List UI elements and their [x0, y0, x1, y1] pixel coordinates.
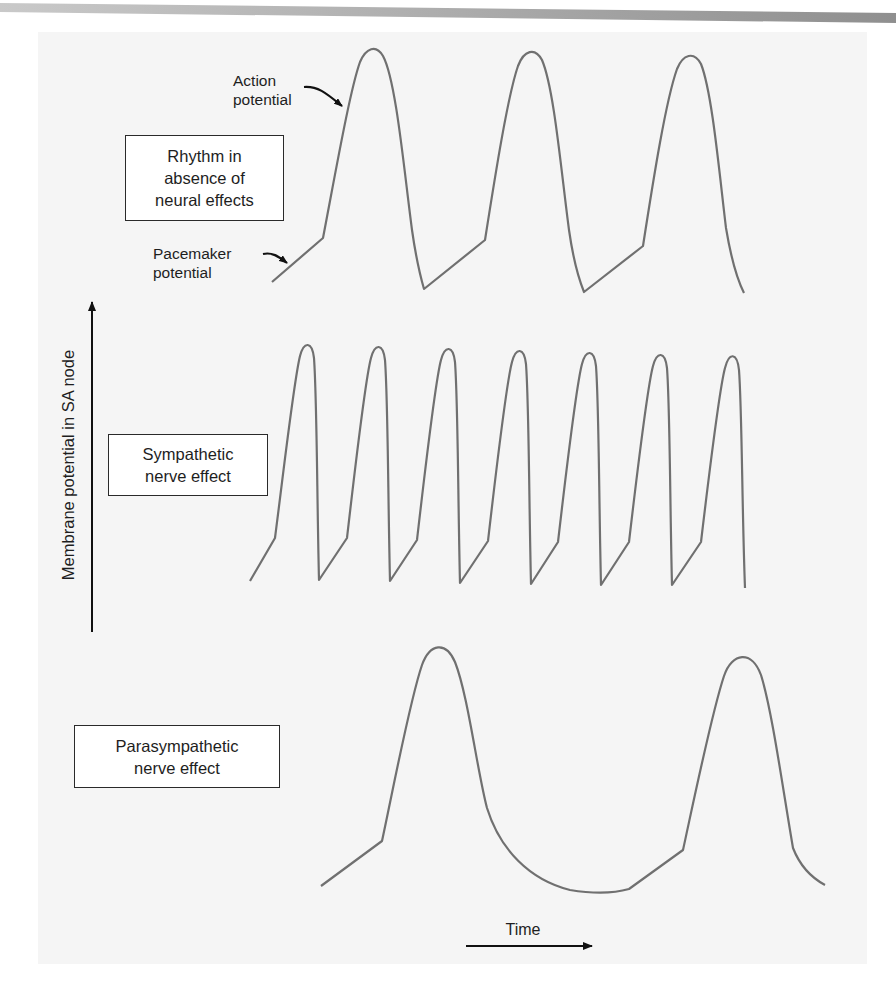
box-line: absence of: [164, 167, 245, 189]
y-axis-label: Membrane potential in SA node: [59, 350, 78, 580]
pacemaker-potential-pointer: [263, 253, 287, 263]
sympathetic-trace: [250, 345, 745, 588]
box-line: nerve effect: [145, 465, 231, 487]
action-potential-pointer: [304, 87, 342, 106]
annotation-line: potential: [153, 263, 231, 282]
pacemaker-potential-annotation: Pacemaker potential: [153, 244, 231, 282]
x-axis-label: Time: [506, 921, 541, 939]
action-potential-annotation: Action potential: [233, 71, 292, 109]
baseline-rhythm-label-box: Rhythm in absence of neural effects: [125, 135, 284, 221]
box-line: Sympathetic: [143, 443, 234, 465]
baseline-rhythm-trace: [272, 49, 744, 293]
box-line: neural effects: [155, 189, 254, 211]
box-line: Parasympathetic: [116, 735, 239, 757]
box-line: Rhythm in: [167, 145, 241, 167]
sympathetic-label-box: Sympathetic nerve effect: [108, 434, 268, 496]
annotation-line: Action: [233, 71, 292, 90]
box-line: nerve effect: [134, 757, 220, 779]
parasympathetic-label-box: Parasympathetic nerve effect: [74, 725, 280, 788]
annotation-line: Pacemaker: [153, 244, 231, 263]
parasympathetic-trace: [321, 647, 825, 892]
annotation-line: potential: [233, 90, 292, 109]
